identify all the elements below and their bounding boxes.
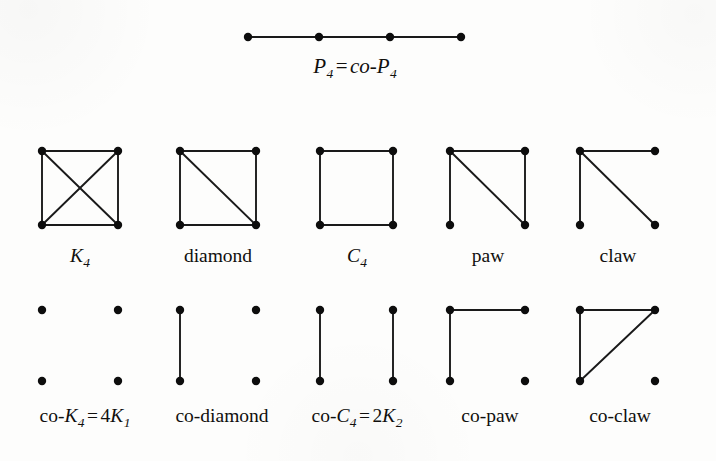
- graph-vertex-paw: [521, 147, 529, 155]
- label-part: 2: [373, 405, 383, 426]
- label-co-claw: co-claw: [589, 406, 651, 426]
- graph-vertex-c4: [389, 147, 397, 155]
- label-part: =: [85, 405, 101, 426]
- label-part: K: [110, 405, 123, 426]
- label-part: co: [350, 54, 370, 78]
- graph-vertex-co-diamond: [176, 306, 184, 314]
- graph-vertex-co-claw: [651, 306, 659, 314]
- graph-vertex-diamond: [252, 147, 260, 155]
- label-part: 4: [326, 66, 333, 81]
- graph-vertex-k4: [38, 147, 46, 155]
- label-part: =: [333, 54, 350, 78]
- label-diamond: diamond: [184, 246, 252, 266]
- graph-vertex-claw: [576, 147, 584, 155]
- graph-vertex-p4: [244, 33, 252, 41]
- graph-vertex-co-diamond: [252, 377, 260, 385]
- label-part: K: [70, 245, 83, 266]
- label-p4: P4=co-P4: [313, 56, 397, 77]
- label-part: diamond: [184, 245, 252, 266]
- graph-vertex-p4: [457, 33, 465, 41]
- graph-vertex-co-k4: [38, 306, 46, 314]
- graph-vertex-co-diamond: [176, 377, 184, 385]
- label-part: 4: [77, 415, 84, 430]
- label-part: co-diamond: [175, 405, 268, 426]
- graph-vertex-claw: [576, 221, 584, 229]
- label-part: paw: [472, 245, 505, 266]
- label-part: 1: [123, 415, 130, 430]
- label-co-diamond: co-diamond: [175, 406, 268, 426]
- graph-vertex-paw: [446, 147, 454, 155]
- label-part: P: [313, 54, 326, 78]
- graph-vertex-c4: [316, 147, 324, 155]
- label-part: co-: [40, 405, 65, 426]
- label-part: co-: [312, 405, 337, 426]
- label-k4: K4: [70, 246, 90, 266]
- label-part: 4: [360, 255, 367, 270]
- label-co-c4: co-C4=2K2: [312, 406, 403, 426]
- graph-vertex-diamond: [176, 221, 184, 229]
- graph-vertex-k4: [114, 221, 122, 229]
- graph-vertex-co-paw: [446, 306, 454, 314]
- label-part: =: [357, 405, 373, 426]
- label-co-k4: co-K4=4K1: [40, 406, 131, 426]
- label-co-paw: co-paw: [461, 406, 518, 426]
- graph-vertex-p4: [386, 33, 394, 41]
- label-part: C: [336, 405, 349, 426]
- label-part: 4: [83, 255, 90, 270]
- graph-vertex-co-paw: [446, 377, 454, 385]
- label-paw: paw: [472, 246, 505, 266]
- graph-edge-claw: [580, 151, 655, 225]
- graph-layer: [38, 33, 659, 385]
- label-part: -: [370, 54, 377, 78]
- graph-vertex-co-paw: [521, 306, 529, 314]
- label-part: claw: [600, 245, 637, 266]
- graph-vertex-co-c4: [389, 306, 397, 314]
- graph-vertex-co-c4: [389, 377, 397, 385]
- graph-vertex-k4: [38, 221, 46, 229]
- graph-vertex-diamond: [176, 147, 184, 155]
- graph-vertex-co-c4: [316, 306, 324, 314]
- graph-vertex-p4: [315, 33, 323, 41]
- graph-vertex-co-claw: [651, 377, 659, 385]
- label-part: 2: [395, 415, 402, 430]
- label-part: co-claw: [589, 405, 651, 426]
- graph-vertex-c4: [389, 221, 397, 229]
- label-part: 4: [349, 415, 356, 430]
- graph-vertex-co-claw: [576, 377, 584, 385]
- graph-vertex-co-k4: [114, 377, 122, 385]
- label-c4: C4: [347, 246, 367, 266]
- label-part: 4: [101, 405, 111, 426]
- figure-page: P4=co-P4 K4 diamond C4 paw claw co-K4=4K…: [0, 0, 716, 461]
- graph-vertex-co-k4: [38, 377, 46, 385]
- label-part: co-paw: [461, 405, 518, 426]
- graph-vertex-co-diamond: [252, 306, 260, 314]
- graph-vertex-k4: [114, 147, 122, 155]
- graph-vertex-co-c4: [316, 377, 324, 385]
- graph-edge-paw: [450, 151, 525, 225]
- graph-edge-co-claw: [580, 310, 655, 381]
- graph-vertex-c4: [316, 221, 324, 229]
- label-part: K: [64, 405, 77, 426]
- label-part: C: [347, 245, 360, 266]
- graph-vertex-co-claw: [576, 306, 584, 314]
- label-part: 4: [390, 66, 397, 81]
- graph-vertex-claw: [651, 147, 659, 155]
- graph-vertex-claw: [651, 221, 659, 229]
- label-claw: claw: [600, 246, 637, 266]
- graph-vertex-paw: [521, 221, 529, 229]
- graph-vertex-paw: [446, 221, 454, 229]
- graph-vertex-co-paw: [521, 377, 529, 385]
- graph-vertex-diamond: [252, 221, 260, 229]
- graph-vertex-co-k4: [114, 306, 122, 314]
- graph-edge-diamond: [180, 151, 256, 225]
- label-part: P: [377, 54, 390, 78]
- label-part: K: [382, 405, 395, 426]
